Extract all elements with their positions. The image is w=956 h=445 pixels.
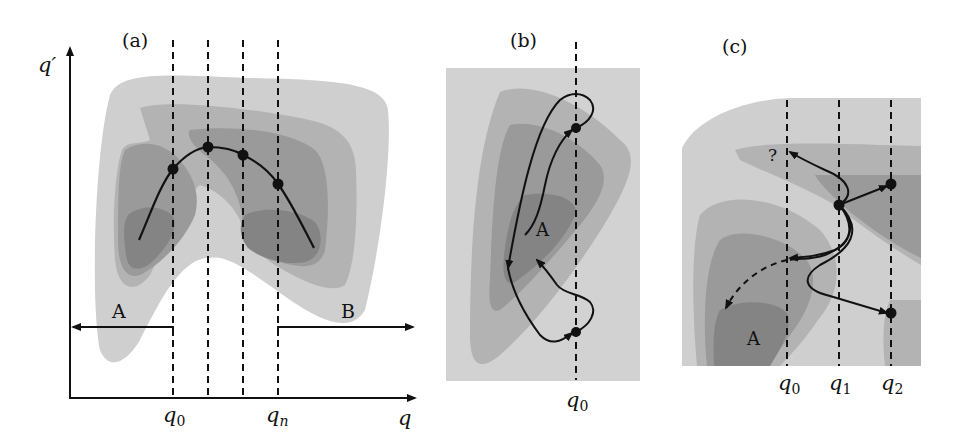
tick-label-q0: q0 xyxy=(163,403,185,429)
tick-label-qn: qn xyxy=(266,403,288,429)
tick-label-c-q1: q1 xyxy=(829,371,851,397)
basin-a-label: A xyxy=(111,300,126,322)
panel-b-label: (b) xyxy=(510,29,537,51)
c-point-q2-upper xyxy=(886,179,897,190)
image-point-1 xyxy=(203,142,214,153)
panel-a-label: (a) xyxy=(122,29,148,51)
panel-c-label: (c) xyxy=(722,35,747,57)
b-point-top xyxy=(571,123,581,133)
image-point-2 xyxy=(238,150,249,161)
panel-c: (c) ? A q0 q1 q2 xyxy=(682,35,921,397)
tick-label-b-q0: q0 xyxy=(566,388,588,414)
b-point-bottom xyxy=(571,327,581,337)
panel-a: (a) q′ q A B q0 qn xyxy=(38,29,415,430)
figure: (a) q′ q A B q0 qn (b) A q0 xyxy=(0,0,956,445)
x-axis-label: q xyxy=(398,406,411,430)
basin-b-label: B xyxy=(341,300,355,322)
c-point-q2-lower xyxy=(886,308,897,319)
image-point-0 xyxy=(168,164,179,175)
y-axis-label: q′ xyxy=(38,53,56,77)
c-point-q1 xyxy=(834,200,845,211)
basin-b-arrow xyxy=(278,327,413,336)
basin-b-a-label: A xyxy=(535,219,550,240)
image-point-n xyxy=(273,179,284,190)
panel-b: (b) A q0 xyxy=(446,29,640,414)
question-mark: ? xyxy=(768,145,777,165)
tick-label-c-q0: q0 xyxy=(778,371,800,397)
basin-c-a-label: A xyxy=(746,328,761,349)
tick-label-c-q2: q2 xyxy=(881,371,903,397)
